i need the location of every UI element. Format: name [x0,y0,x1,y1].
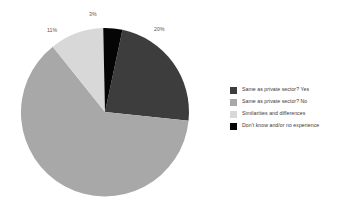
legend-label-dont-know: Don't know and/or no experience [242,123,319,128]
legend-swatch-icon-similarities [230,111,237,118]
pie-value-label-similarities: 11% [47,28,57,33]
legend-swatch-icon-dont-know [230,123,237,130]
legend-item-yes: Same as private sector? Yes [230,84,338,96]
pie-chart-figure: 20% 11% 3% Same as private sector? Yes S… [0,0,340,216]
legend-item-dont-know: Don't know and/or no experience [230,120,338,132]
chart-legend: Same as private sector? Yes Same as priv… [230,84,338,132]
legend-item-no: Same as private sector? No [230,96,338,108]
pie-value-label-dont-know: 3% [89,12,97,17]
legend-swatch-icon-no [230,99,237,106]
pie-chart-svg [0,0,210,216]
legend-label-yes: Same as private sector? Yes [242,87,309,92]
pie-chart-area: 20% 11% 3% [0,0,210,216]
legend-label-similarities: Similarities and differences [242,111,305,116]
pie-value-label-yes: 20% [154,27,165,32]
legend-label-no: Same as private sector? No [242,99,307,104]
legend-swatch-icon-yes [230,87,237,94]
legend-item-similarities: Similarities and differences [230,108,338,120]
